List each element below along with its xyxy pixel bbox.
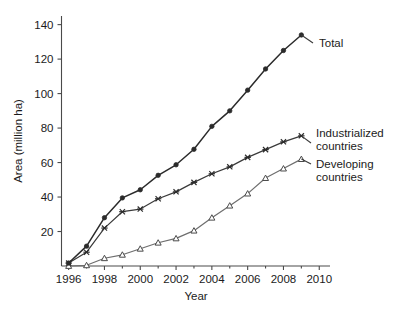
x-tick-label: 2010	[306, 273, 332, 285]
x-axis-title: Year	[184, 290, 207, 302]
x-tick-label: 2000	[127, 273, 153, 285]
x-tick-label: 2006	[235, 273, 261, 285]
y-tick-label: 120	[34, 53, 53, 65]
x-tick-label: 2002	[163, 273, 189, 285]
data-point-marker	[156, 173, 160, 177]
series-label-industrialized-line2: countries	[316, 140, 363, 152]
series-label-total: Total	[319, 37, 343, 49]
y-tick-label: 60	[41, 157, 54, 169]
y-tick-label: 80	[41, 122, 54, 134]
data-point-marker	[174, 163, 178, 167]
data-point-marker	[84, 244, 88, 248]
data-point-marker	[138, 188, 142, 192]
series-label-developing-line1: Developing	[316, 158, 374, 170]
line-chart: 20406080100120140 1996199820002002200420…	[0, 0, 395, 314]
y-tick-label: 20	[41, 226, 54, 238]
chart-figure: 20406080100120140 1996199820002002200420…	[0, 0, 395, 314]
x-tick-label: 1998	[92, 273, 118, 285]
data-point-marker	[210, 124, 214, 128]
data-point-marker	[102, 216, 106, 220]
data-point-marker	[66, 261, 70, 265]
data-point-marker	[245, 88, 249, 92]
data-point-marker	[228, 109, 232, 113]
y-axis-title: Area (million ha)	[12, 99, 24, 183]
data-point-marker	[120, 196, 124, 200]
x-tick-label: 2008	[271, 273, 297, 285]
x-tick-label: 2004	[199, 273, 225, 285]
y-tick-label: 140	[34, 19, 53, 31]
data-point-marker	[192, 147, 196, 151]
series-label-industrialized-line1: Industrialized	[316, 127, 384, 139]
series-label-developing-line2: countries	[316, 171, 363, 183]
series-label-total-group: Total	[319, 37, 343, 49]
x-tick-label: 1996	[56, 273, 82, 285]
data-point-marker	[281, 48, 285, 52]
y-tick-label: 40	[41, 191, 54, 203]
data-point-marker	[263, 67, 267, 71]
y-tick-label: 100	[34, 88, 53, 100]
